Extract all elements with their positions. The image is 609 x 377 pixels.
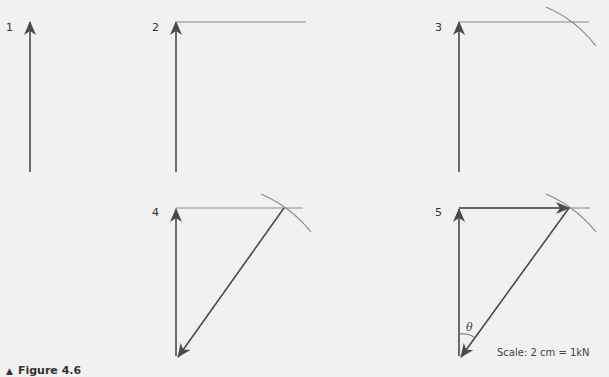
- panel-label-2: 2: [152, 21, 159, 34]
- panel-1: 1: [6, 21, 30, 172]
- panel-5: 5 θ Scale: 2 cm = 1kN: [435, 194, 596, 358]
- panel-4: 4: [152, 194, 311, 357]
- angle-arc: [459, 334, 474, 337]
- scale-label: Scale: 2 cm = 1kN: [497, 347, 590, 358]
- panel-label-4: 4: [152, 206, 159, 219]
- figure-caption: ▲Figure 4.6: [6, 364, 81, 377]
- panel-label-1: 1: [6, 21, 13, 34]
- panel-label-3: 3: [435, 21, 442, 34]
- caption-triangle-icon: ▲: [6, 366, 13, 376]
- compass-arc: [261, 194, 311, 232]
- resultant-vector-arrow: [178, 208, 284, 357]
- compass-arc: [546, 7, 596, 46]
- panel-2: 2: [152, 21, 306, 172]
- resultant-vector-arrow: [461, 208, 569, 357]
- angle-theta-label: θ: [466, 321, 473, 334]
- panel-label-5: 5: [435, 206, 442, 219]
- caption-text: Figure 4.6: [18, 364, 81, 377]
- compass-arc: [546, 194, 596, 232]
- panel-3: 3: [435, 7, 596, 172]
- vector-construction-diagram: 1 2 3 4 5 θ Scale: 2 cm = 1kN: [0, 0, 609, 377]
